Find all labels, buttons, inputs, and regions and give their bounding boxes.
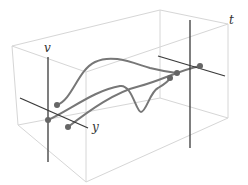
end-point [167,75,173,81]
end-point [197,63,203,69]
box-edge [18,125,86,182]
bounding-box [12,10,228,182]
curve-3 [68,66,200,127]
start-point [54,102,60,108]
trajectory-curves [48,59,200,127]
start-point [45,117,51,123]
box-edge [12,10,160,46]
box-edge [160,10,228,24]
right-frame [158,20,225,148]
box-edge [86,118,228,182]
start-point [65,124,71,130]
end-point [174,70,180,76]
trajectory-diagram: v y t [0,0,248,185]
left-frame [20,57,88,162]
box-edge [12,46,18,125]
label-t: t [229,13,234,27]
box-edge [160,98,228,118]
box-edge [86,24,228,72]
label-v: v [44,41,51,55]
right-y-axis [158,56,225,76]
label-y: y [91,120,99,134]
